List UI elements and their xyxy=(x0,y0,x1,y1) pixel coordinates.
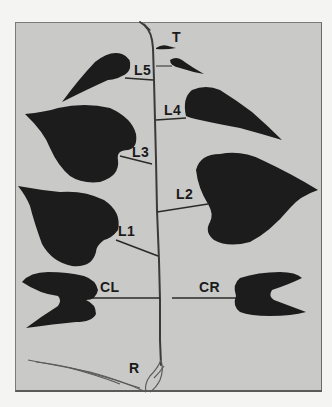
label-R: R xyxy=(129,361,140,375)
label-CR: CR xyxy=(199,280,220,294)
plant-illustration xyxy=(0,0,332,407)
leaf-L5-right xyxy=(156,58,204,74)
label-L3: L3 xyxy=(132,145,149,159)
leaf-L1 xyxy=(18,186,158,266)
label-T: T xyxy=(172,30,181,44)
roots xyxy=(28,360,164,392)
label-CL: CL xyxy=(100,280,120,294)
leaf-CR xyxy=(172,272,306,316)
label-L4: L4 xyxy=(164,103,181,117)
label-L5: L5 xyxy=(134,63,151,77)
label-L2: L2 xyxy=(176,187,193,201)
leaf-T xyxy=(156,45,176,49)
leaf-CL xyxy=(22,272,160,328)
label-L1: L1 xyxy=(118,224,135,238)
